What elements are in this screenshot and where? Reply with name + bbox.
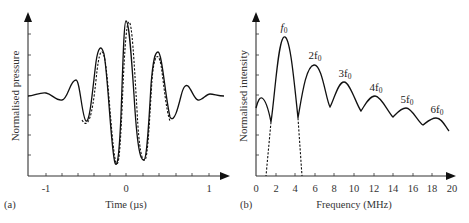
panel-a: -1 0 1 (a) Time (µs) Normalised pressure xyxy=(4,12,230,211)
a-tick-label: 0 xyxy=(123,183,128,194)
b-tick-label: 8 xyxy=(331,183,336,194)
b-dashed-min-1 xyxy=(266,122,271,176)
b-tick-label: 4 xyxy=(292,183,298,194)
a-tick-label: 1 xyxy=(206,183,211,194)
b-tick-label: 14 xyxy=(388,183,399,194)
figure: -1 0 1 (a) Time (µs) Normalised pressure xyxy=(0,0,469,223)
b-dashed-min-2 xyxy=(298,118,302,176)
b-tick-label: 16 xyxy=(408,183,419,194)
b-x-axis-arrow-icon xyxy=(446,172,456,180)
b-tick-label: 18 xyxy=(427,183,438,194)
b-tick-label: 10 xyxy=(349,183,360,194)
peak-label-5f0: 5f0 xyxy=(401,93,414,107)
panel-b: 0 2 4 6 8 10 12 14 16 18 20 (b) Frequenc… xyxy=(237,12,457,211)
peak-label-3f0: 3f0 xyxy=(339,67,352,81)
b-tick-label: 2 xyxy=(273,183,278,194)
peak-label-6f0: 6f0 xyxy=(431,103,444,117)
a-y-axis-arrow-icon xyxy=(24,12,32,22)
b-y-axis-label: Normalised intensity xyxy=(237,50,249,142)
b-tick-label: 12 xyxy=(369,183,380,194)
a-tick-label: -1 xyxy=(42,183,51,194)
a-model-curve xyxy=(82,22,170,164)
peak-label-4f0: 4f0 xyxy=(370,81,383,95)
peak-label-2f0: 2f0 xyxy=(309,49,322,63)
b-spectrum-curve xyxy=(256,37,449,131)
a-x-axis-arrow-icon xyxy=(220,172,230,180)
a-x-axis-label: Time (µs) xyxy=(105,199,147,211)
b-tick-label: 0 xyxy=(253,183,258,194)
b-y-axis-arrow-icon xyxy=(252,12,260,22)
panel-a-label: (a) xyxy=(4,199,16,211)
a-y-axis-label: Normalised pressure xyxy=(9,51,21,142)
a-measured-curve xyxy=(28,21,224,164)
b-tick-label: 6 xyxy=(312,183,317,194)
b-x-axis-label: Frequency (MHz) xyxy=(316,199,392,211)
b-tick-label: 20 xyxy=(447,183,458,194)
panel-b-label: (b) xyxy=(240,199,253,211)
peak-label-f0: f0 xyxy=(281,21,288,35)
